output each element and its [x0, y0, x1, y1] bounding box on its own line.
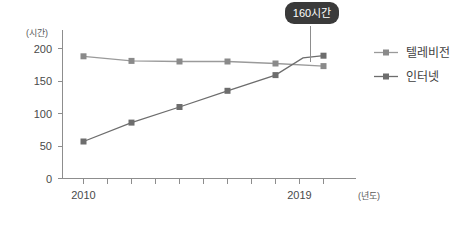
callout-badge: 160시간: [285, 2, 339, 24]
television-line: [84, 56, 324, 66]
y-tick-label-0: 0: [46, 173, 52, 185]
legend: 텔레비전 인터넷: [374, 46, 450, 84]
legend-item-television[interactable]: 텔레비전: [374, 46, 450, 60]
internet-marker: [225, 88, 231, 94]
internet-marker: [177, 104, 183, 110]
internet-marker: [129, 120, 135, 126]
television-marker: [273, 61, 279, 67]
callout-badge-label: 160시간: [293, 7, 331, 19]
x-tick-label-2019: 2019: [287, 189, 311, 201]
legend-item-internet[interactable]: 인터넷: [374, 70, 439, 84]
internet-marker: [81, 139, 87, 145]
internet-marker: [273, 72, 279, 78]
internet-line: [84, 56, 324, 142]
legend-label-internet: 인터넷: [406, 70, 439, 84]
chart-container: 200 150 100 50 0 (시간) 2010 2019 (년도): [0, 0, 469, 230]
television-marker: [81, 53, 87, 59]
television-marker: [129, 58, 135, 64]
internet-marker: [321, 53, 327, 59]
x-tick-label-2010: 2010: [71, 189, 95, 201]
television-marker: [177, 59, 183, 65]
legend-label-television: 텔레비전: [406, 46, 450, 60]
y-tick-label-100: 100: [34, 108, 52, 120]
legend-marker-television: [383, 50, 389, 56]
x-tick-marks: [84, 179, 324, 185]
x-axis-caption: (년도): [358, 191, 380, 201]
y-axis-caption: (시간): [26, 28, 48, 38]
legend-marker-internet: [383, 74, 389, 80]
television-marker: [225, 59, 231, 65]
y-tick-label-200: 200: [34, 43, 52, 55]
y-tick-label-50: 50: [40, 140, 52, 152]
series-internet: [81, 53, 327, 145]
y-tick-marks: [58, 49, 63, 179]
line-chart: 200 150 100 50 0 (시간) 2010 2019 (년도): [0, 0, 469, 230]
y-tick-label-150: 150: [34, 75, 52, 87]
television-marker: [321, 63, 327, 69]
